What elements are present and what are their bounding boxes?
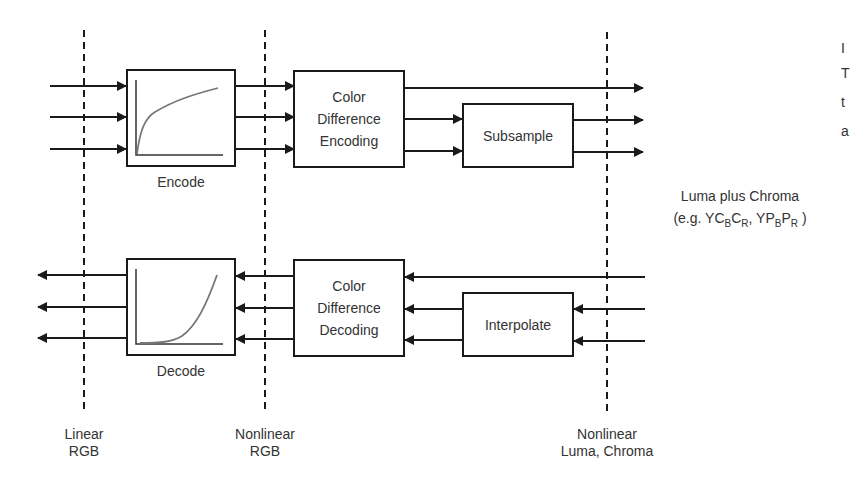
- clipped-text-3: t: [841, 94, 845, 110]
- encode-label: Encode: [127, 174, 235, 191]
- decode-box: [127, 259, 235, 355]
- cde-line3: Encoding: [317, 130, 381, 152]
- cde-line1: Color: [317, 86, 381, 108]
- cdd-line3: Decoding: [317, 319, 381, 341]
- example-formats: (e.g. YCBCR, YPBPR ): [640, 210, 840, 227]
- nonlinear-luma-chroma-line1: Nonlinear: [547, 426, 667, 443]
- example-prefix: (e.g. YC: [673, 210, 724, 226]
- linear-rgb-line2: RGB: [34, 443, 134, 460]
- sub-r1: R: [741, 218, 748, 229]
- encode-curve-graph: [136, 80, 223, 155]
- sub-r2: R: [791, 218, 798, 229]
- cdd-line2: Difference: [317, 297, 381, 319]
- encode-gamma-curve: [137, 88, 218, 154]
- example-suffix: ): [798, 210, 807, 226]
- clipped-text-4: a: [841, 123, 849, 139]
- example-mid1: C: [731, 210, 741, 226]
- decode-gamma-curve: [140, 275, 217, 343]
- cdd-label: ColorDifferenceDecoding: [294, 260, 404, 356]
- decode-label: Decode: [127, 363, 235, 380]
- clipped-text-2: T: [841, 65, 850, 81]
- linear-rgb-label: Linear RGB: [34, 426, 134, 460]
- example-mid2: , YP: [749, 210, 775, 226]
- nonlinear-rgb-line1: Nonlinear: [215, 426, 315, 443]
- clipped-text-1: I: [841, 40, 845, 56]
- example-mid3: P: [781, 210, 790, 226]
- nonlinear-luma-chroma-label: Nonlinear Luma, Chroma: [547, 426, 667, 460]
- cde-label: ColorDifferenceEncoding: [294, 71, 404, 167]
- luma-plus-chroma-label: Luma plus Chroma (e.g. YCBCR, YPBPR ): [640, 188, 840, 227]
- nonlinear-luma-chroma-line2: Luma, Chroma: [547, 443, 667, 460]
- linear-rgb-line1: Linear: [34, 426, 134, 443]
- nonlinear-rgb-label: Nonlinear RGB: [215, 426, 315, 460]
- cde-line2: Difference: [317, 108, 381, 130]
- encode-box: [127, 70, 235, 166]
- luma-plus-chroma-line1: Luma plus Chroma: [640, 188, 840, 205]
- interpolate-label: Interpolate: [463, 293, 573, 356]
- decode-curve-graph: [136, 269, 223, 344]
- nonlinear-rgb-line2: RGB: [215, 443, 315, 460]
- subsample-label: Subsample: [463, 104, 573, 167]
- cdd-line1: Color: [317, 275, 381, 297]
